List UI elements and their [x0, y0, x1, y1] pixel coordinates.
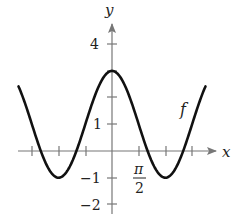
curve-label-f: f [179, 100, 189, 119]
y-tick-label-neg2: −2 [80, 197, 101, 213]
svg-text:π: π [133, 161, 144, 177]
svg-text:2: 2 [135, 180, 144, 196]
y-axis-label: y [104, 1, 114, 19]
y-tick-label-neg1: −1 [80, 170, 101, 186]
y-tick-label-1: 1 [93, 116, 102, 132]
function-graph: y x f 4 1 −1 −2 π 2 [0, 0, 234, 214]
y-tick-label-4: 4 [90, 36, 99, 52]
x-tick-label-pi-over-2: π 2 [133, 161, 146, 196]
x-axis-label: x [222, 143, 231, 161]
